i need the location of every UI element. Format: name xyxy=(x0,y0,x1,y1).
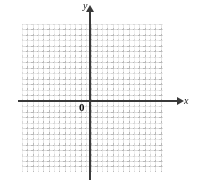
x-axis-label: x xyxy=(184,96,188,106)
grid-dot-mask-vertical xyxy=(22,24,163,172)
grid-dot-mask-horizontal xyxy=(22,24,163,172)
x-axis-line xyxy=(18,100,178,102)
x-axis-arrowhead-icon xyxy=(177,97,184,105)
y-axis-label: y xyxy=(83,1,87,11)
origin-label: 0 xyxy=(79,102,85,113)
y-axis-line xyxy=(89,12,91,180)
graph-paper-grid xyxy=(22,24,163,172)
coordinate-grid-figure: x y 0 xyxy=(0,0,197,184)
